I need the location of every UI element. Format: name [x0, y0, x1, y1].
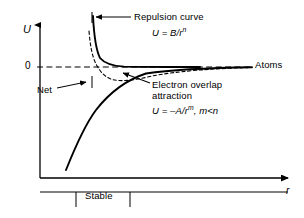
x-axis-label: r [286, 185, 289, 196]
attraction-equation-condition: , m<n [194, 105, 219, 116]
repulsion-curve-label: Repulsion curve [134, 11, 204, 22]
repulsion-equation-exponent: n [183, 26, 187, 33]
attraction-equation: U = –A/rm, m<n [152, 102, 218, 116]
attraction-equation-base: U = –A/r [152, 105, 188, 116]
attraction-label-line2: attraction [152, 90, 192, 101]
repulsion-equation: U = B/rn [152, 24, 186, 38]
repulsion-equation-base: U = B/r [152, 27, 183, 38]
atoms-label: Atoms [255, 59, 282, 70]
zero-tick-label: 0 [25, 60, 31, 71]
attraction-label-line1: Electron overlap [152, 79, 222, 90]
net-curve-label: Net [37, 84, 52, 95]
potential-energy-diagram: U 0 r Atoms Stable Net Repulsion curve U… [0, 0, 304, 218]
y-axis-label: U [23, 24, 31, 35]
stable-region-label: Stable [85, 190, 113, 201]
net-curve [89, 31, 248, 81]
net-leader-line [57, 82, 86, 88]
